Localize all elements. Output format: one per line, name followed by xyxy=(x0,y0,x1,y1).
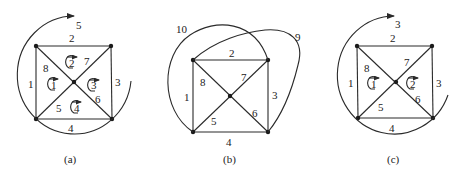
edge-label: 4 xyxy=(389,122,395,134)
edge-label: 3 xyxy=(272,89,278,101)
edge-label: 5 xyxy=(76,19,82,31)
edge-label: 8 xyxy=(364,62,370,74)
node xyxy=(109,44,113,48)
node xyxy=(355,44,359,48)
figure-a: 5 2 1 3 4 8 7 5 6 1 2 3 4 (a) xyxy=(17,16,131,166)
edge-1 xyxy=(357,46,358,118)
node xyxy=(34,44,38,48)
edge-label: 1 xyxy=(184,91,190,103)
mesh-label: 1 xyxy=(371,78,377,90)
edge-label: 8 xyxy=(200,76,206,88)
edge-label: 2 xyxy=(390,32,396,44)
edge-label: 10 xyxy=(176,23,188,35)
edge-label: 2 xyxy=(229,47,235,59)
edge-label: 5 xyxy=(211,115,217,127)
edge-label: 3 xyxy=(436,77,442,89)
edge-label: 6 xyxy=(95,93,101,105)
edge-label: 9 xyxy=(295,31,301,43)
edge-label: 7 xyxy=(84,55,90,67)
edge-label: 7 xyxy=(404,56,410,68)
figure-caption: (b) xyxy=(223,153,236,166)
edge-label: 4 xyxy=(68,122,74,134)
node xyxy=(72,80,76,84)
node xyxy=(228,94,232,98)
graph-figures: 5 2 1 3 4 8 7 5 6 1 2 3 4 (a) xyxy=(0,0,462,175)
edge-label: 7 xyxy=(241,71,247,83)
mesh-label: 1 xyxy=(51,79,57,91)
edge-3 xyxy=(111,46,112,119)
edge-label: 3 xyxy=(115,76,121,88)
edge-3 xyxy=(432,46,433,118)
edge-label: 1 xyxy=(28,78,34,90)
node xyxy=(430,44,434,48)
figure-caption: (c) xyxy=(387,153,400,166)
figure-caption: (a) xyxy=(64,153,77,166)
mesh-label: 4 xyxy=(74,102,80,114)
node xyxy=(394,80,398,84)
mesh-label: 2 xyxy=(410,78,416,90)
edge-label: 4 xyxy=(226,136,232,148)
edge-label: 5 xyxy=(56,102,62,114)
figure-b: 10 9 2 1 3 4 8 7 5 6 (b) xyxy=(168,23,301,166)
edge-label: 5 xyxy=(378,101,384,113)
edge-label: 1 xyxy=(348,77,354,89)
figure-c: 3 2 1 3 4 8 7 5 6 1 2 (c) xyxy=(337,16,448,166)
mesh-label: 2 xyxy=(69,57,75,69)
edge-label: 3 xyxy=(395,18,401,30)
edge-label: 6 xyxy=(415,93,421,105)
edge-label: 8 xyxy=(43,62,49,74)
edge-label: 2 xyxy=(69,32,75,44)
mesh-label: 3 xyxy=(91,79,97,91)
edge-label: 6 xyxy=(252,107,258,119)
